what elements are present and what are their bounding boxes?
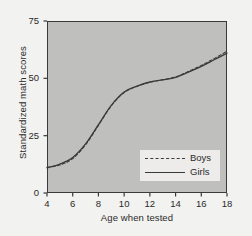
legend-item-girls: Girls bbox=[140, 165, 220, 180]
legend-label-girls: Girls bbox=[190, 166, 210, 177]
legend-swatch-solid bbox=[145, 172, 185, 173]
x-tick-label: 10 bbox=[114, 198, 134, 209]
legend-item-boys: Boys bbox=[140, 151, 220, 166]
y-tick-label: 0 bbox=[17, 187, 39, 198]
legend-swatch-dashed bbox=[145, 158, 185, 159]
chart-figure: 0255075 4681012141618 Standardized math … bbox=[0, 0, 252, 236]
x-tick-label: 18 bbox=[217, 198, 237, 209]
x-tick-label: 16 bbox=[191, 198, 211, 209]
chart-legend: Boys Girls bbox=[140, 150, 220, 181]
x-tick-label: 8 bbox=[88, 198, 108, 209]
x-tick-label: 4 bbox=[37, 198, 57, 209]
x-tick-label: 6 bbox=[63, 198, 83, 209]
x-tick-label: 14 bbox=[166, 198, 186, 209]
x-tick-label: 12 bbox=[140, 198, 160, 209]
legend-label-boys: Boys bbox=[190, 152, 211, 163]
y-axis-label: Standardized math scores bbox=[17, 23, 28, 183]
x-axis-label: Age when tested bbox=[47, 212, 227, 223]
